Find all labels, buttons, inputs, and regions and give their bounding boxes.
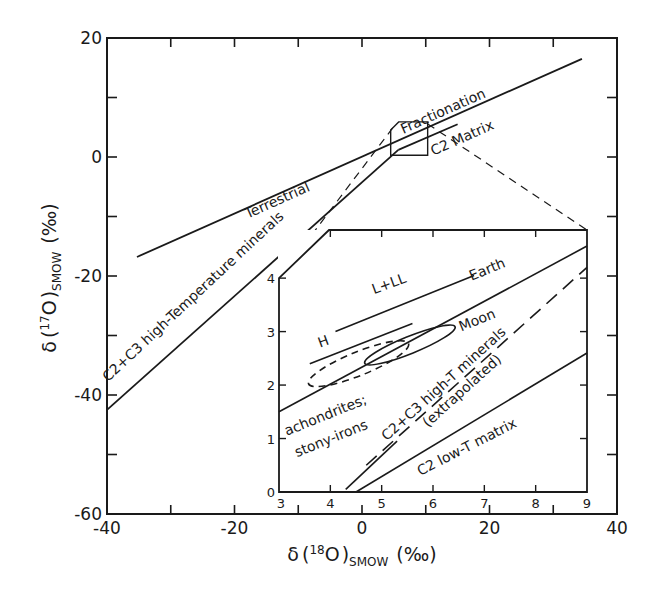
series-terrestrial-fractionation [137, 59, 582, 257]
inset-y-tick-label: 1 [267, 432, 275, 447]
oxygen-isotope-chart: -40-2002040200-20-40-60TerrestrialFracti… [0, 0, 650, 592]
y-tick-label: 0 [91, 147, 102, 167]
y-tick-label: -60 [74, 504, 102, 524]
x-tick-label: -20 [221, 518, 249, 538]
label-c2-c3-high-temperature-minerals: C2+C3 high-Temperature minerals [99, 208, 287, 384]
inset-background [278, 230, 588, 492]
inset-x-tick-label: 4 [326, 496, 334, 511]
inset-x-tick-label: 7 [480, 496, 488, 511]
y-tick-label: 20 [80, 28, 102, 48]
inset-x-tick-label: 3 [277, 496, 285, 511]
x-tick-label: 0 [357, 518, 368, 538]
inset-y-tick-label: 2 [267, 378, 275, 393]
inset-x-tick-label: 8 [532, 496, 540, 511]
y-axis-title: δ(17O)SMOW(‰) [38, 203, 64, 352]
y-tick-label: -20 [74, 266, 102, 286]
inset-x-tick-label: 5 [378, 496, 386, 511]
x-tick-label: 40 [606, 518, 628, 538]
inset-plot: 345678901234L+LLHEarthMoonachondrites;st… [267, 230, 591, 511]
inset-y-tick-label: 0 [267, 485, 275, 500]
x-axis-title: δ(18O)SMOW(‰) [287, 543, 436, 569]
inset-x-tick-label: 6 [429, 496, 437, 511]
inset-y-tick-label: 3 [267, 325, 275, 340]
zoom-connector-right [428, 124, 587, 230]
inset-y-tick-label: 4 [267, 271, 275, 286]
inset-x-tick-label: 9 [583, 496, 591, 511]
y-tick-label: -40 [74, 385, 102, 405]
x-tick-label: 20 [479, 518, 501, 538]
